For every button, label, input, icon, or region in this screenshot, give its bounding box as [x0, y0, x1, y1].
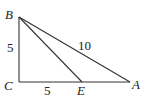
segment-be: [19, 17, 82, 82]
length-label-bc: 5: [7, 40, 14, 55]
point-label-b: B: [5, 7, 13, 22]
point-label-e: E: [76, 83, 85, 97]
point-label-a: A: [131, 77, 140, 92]
length-label-ce: 5: [44, 83, 51, 97]
triangle-diagram: B C E A 5 5 10: [0, 0, 145, 97]
length-label-ab: 10: [78, 38, 91, 53]
point-label-c: C: [4, 78, 13, 93]
segment-ba: [19, 17, 130, 82]
